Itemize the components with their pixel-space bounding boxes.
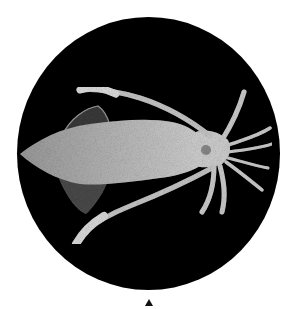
triangle-marker-icon: [145, 299, 153, 306]
image-canvas: [0, 0, 291, 309]
eye: [201, 145, 211, 155]
squid-photo: [0, 0, 291, 309]
